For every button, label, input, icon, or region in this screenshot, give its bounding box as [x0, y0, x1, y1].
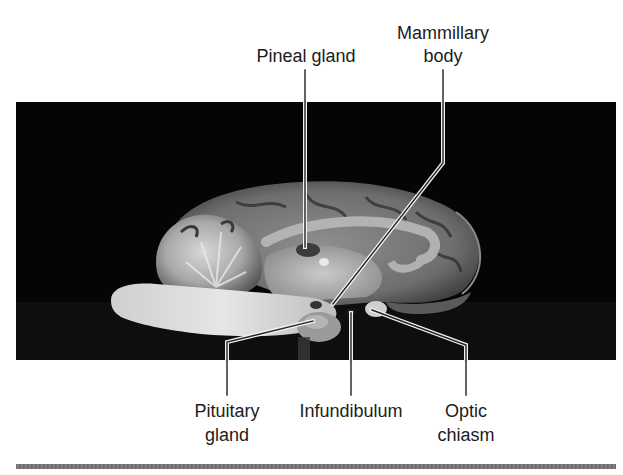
label-mammillary-body-line2: body: [388, 45, 498, 67]
optic-chiasm-shape: [365, 301, 387, 317]
label-infundibulum: Infundibulum: [286, 400, 416, 422]
label-pituitary-gland-line2: gland: [177, 424, 277, 446]
label-mammillary-body-line1: Mammillary: [388, 22, 498, 44]
label-pineal-gland: Pineal gland: [243, 45, 369, 67]
label-optic-chiasm-line2: chiasm: [426, 424, 506, 446]
brain-illustration: [16, 102, 616, 360]
label-pituitary-gland-line1: Pituitary: [177, 400, 277, 422]
label-optic-chiasm-line1: Optic: [426, 400, 506, 422]
bottom-divider: [16, 464, 616, 469]
brain-sagittal-photo: [16, 102, 616, 360]
